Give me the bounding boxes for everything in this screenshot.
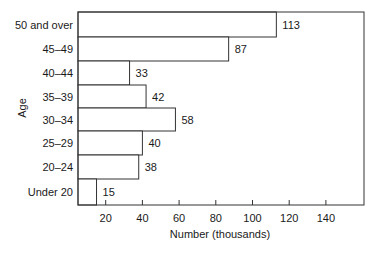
x-tick-label: 100 bbox=[243, 212, 261, 224]
value-label: 87 bbox=[235, 43, 247, 55]
value-label: 40 bbox=[148, 137, 160, 149]
category-label: 50 and over bbox=[15, 19, 73, 31]
x-tick-label: 120 bbox=[280, 212, 298, 224]
bar bbox=[78, 61, 130, 85]
value-label: 15 bbox=[103, 186, 115, 198]
value-label: 113 bbox=[282, 19, 300, 31]
x-tick-label: 60 bbox=[173, 212, 185, 224]
x-tick-label: 20 bbox=[100, 212, 112, 224]
value-label: 33 bbox=[136, 67, 148, 79]
bar bbox=[78, 131, 142, 155]
category-label: Under 20 bbox=[28, 186, 73, 198]
x-tick-label: 140 bbox=[317, 212, 335, 224]
value-label: 38 bbox=[145, 161, 157, 173]
category-label: 25–29 bbox=[42, 137, 73, 149]
bar-chart: 50 and over45–4940–4435–3930–3425–2920–2… bbox=[0, 0, 382, 253]
category-label: 45–49 bbox=[42, 43, 73, 55]
x-axis-ticks: 20406080100120140 bbox=[100, 200, 336, 224]
bars-group bbox=[78, 12, 276, 205]
bar bbox=[78, 85, 146, 108]
bar bbox=[78, 108, 175, 131]
x-tick-label: 80 bbox=[210, 212, 222, 224]
x-tick-label: 40 bbox=[136, 212, 148, 224]
y-axis-label: Age bbox=[16, 98, 28, 118]
x-axis-label: Number (thousands) bbox=[170, 228, 270, 240]
value-label: 42 bbox=[152, 91, 164, 103]
category-label: 40–44 bbox=[42, 67, 73, 79]
bar bbox=[78, 12, 276, 37]
category-label: 30–34 bbox=[42, 114, 73, 126]
bar bbox=[78, 155, 139, 179]
category-label: 35–39 bbox=[42, 91, 73, 103]
bar bbox=[78, 37, 229, 61]
value-label: 58 bbox=[181, 114, 193, 126]
bar bbox=[78, 179, 97, 205]
category-label: 20–24 bbox=[42, 161, 73, 173]
